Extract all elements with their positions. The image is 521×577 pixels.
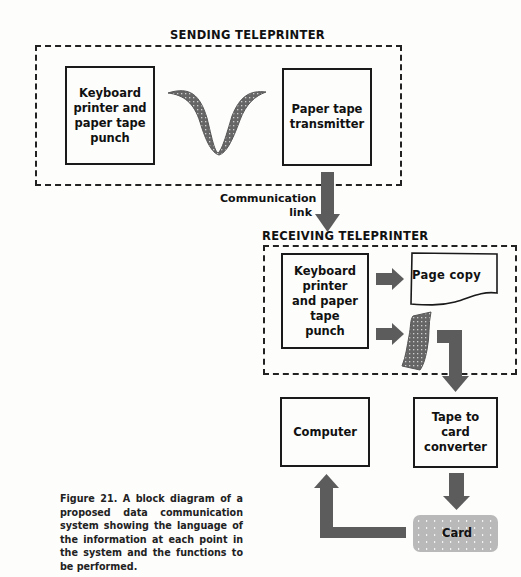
arrow-to-page-copy [376, 268, 404, 290]
communication-link-arrow [315, 172, 340, 232]
card-to-computer-arrow [314, 474, 406, 538]
diagram-graphics [0, 0, 521, 577]
arrow-to-punched-tape [376, 323, 404, 345]
card-label: Card [442, 526, 472, 540]
figure-caption: Figure 21. A block diagram of a proposed… [60, 492, 243, 573]
punched-tape-icon [402, 312, 431, 370]
paper-tape-v-icon [168, 91, 266, 155]
tape-to-converter-arrow [437, 330, 469, 392]
converter-to-card-arrow [443, 473, 470, 510]
page-copy-label: Page copy [412, 268, 481, 282]
